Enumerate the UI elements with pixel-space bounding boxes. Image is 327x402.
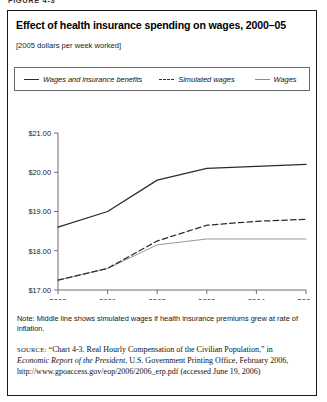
chart-subtitle: [2005 dollars per week worked] [16, 41, 308, 51]
chart-series-line [58, 164, 306, 227]
legend-item-simulated-wages: Simulated wages [159, 75, 234, 84]
legend-label: Wages [274, 75, 297, 84]
page-title: Effect of health insurance spending on w… [16, 19, 308, 31]
legend-label: Wages and insurance benefits [43, 75, 142, 84]
legend-item-wages: Wages [255, 75, 297, 84]
y-axis-tick-label: $17.00 [28, 286, 51, 295]
x-axis-tick-label: 2003 [198, 297, 215, 300]
figure-container: FIGURE 4-3 Effect of health insurance sp… [0, 0, 327, 402]
chart-series-line [58, 239, 306, 280]
legend-line-thin-icon [255, 76, 270, 82]
x-axis-tick-label: 2001 [99, 297, 116, 300]
y-axis-tick-label: $18.00 [28, 247, 51, 256]
x-axis-tick-label: 2005 [297, 297, 310, 300]
figure-number-label: FIGURE 4-3 [8, 0, 55, 5]
x-axis-tick-label: 2000 [49, 297, 67, 300]
chart-series-line [58, 219, 306, 280]
legend-line-dashed-icon [159, 76, 174, 82]
chart-legend: Wages and insurance benefits Simulated w… [14, 67, 310, 91]
y-axis-tick-label: $19.00 [28, 207, 51, 216]
note-text: Middle line shows simulated wages if hea… [17, 314, 298, 333]
line-chart-svg: $21.00$20.00$19.00$18.00$17.002000200120… [14, 100, 310, 300]
chart-source: source: “Chart 4-3. Real Hourly Compensa… [17, 344, 303, 378]
legend-line-solid-icon [24, 76, 39, 82]
source-text-1: “Chart 4-3. Real Hourly Compensation of … [49, 345, 273, 354]
chart-plot-area: $21.00$20.00$19.00$18.00$17.002000200120… [14, 100, 310, 300]
note-label: Note: [17, 314, 35, 323]
legend-label: Simulated wages [178, 75, 234, 84]
x-axis-tick-label: 2004 [248, 297, 266, 300]
x-axis-tick-label: 2002 [149, 297, 166, 300]
y-axis-tick-label: $20.00 [28, 168, 51, 177]
source-publication-title: Economic Report of the President [17, 356, 125, 365]
y-axis-tick-label: $21.00 [28, 129, 51, 138]
source-label: source: [17, 346, 47, 353]
legend-item-wages-and-insurance-benefits: Wages and insurance benefits [24, 75, 142, 84]
chart-note: Note: Middle line shows simulated wages … [17, 314, 301, 333]
